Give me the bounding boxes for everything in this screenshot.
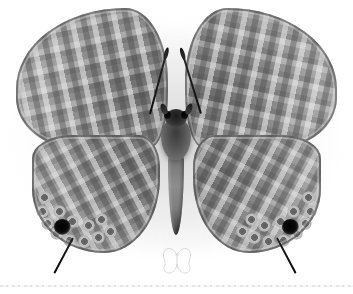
hindwing-right-margin — [193, 135, 321, 253]
butterfly-outline-watermark-icon — [160, 247, 194, 275]
hindwing-left-margin — [32, 135, 160, 253]
scan-edge-line — [0, 285, 353, 287]
forewing-right-margin — [185, 8, 337, 148]
forewing-left — [16, 8, 168, 148]
forewing-left-margin — [16, 8, 168, 148]
forewing-right — [185, 8, 337, 148]
hindwing-right — [193, 135, 321, 253]
hindwing-left — [32, 135, 160, 253]
butterfly-specimen-plate: Grayscale photograph of a spread butterf… — [0, 0, 353, 294]
